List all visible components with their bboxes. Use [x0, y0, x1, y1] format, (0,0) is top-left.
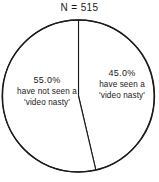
- slice-label-have-not-seen: 55.0% have not seen a 'video nasty': [5, 75, 89, 108]
- slice-percent-have-not-seen: 55.0%: [5, 75, 89, 85]
- slice-label-have-seen: 45.0% have seen a 'video nasty': [88, 68, 156, 101]
- slice-percent-have-seen: 45.0%: [88, 68, 156, 78]
- slice-text-line2-have-seen: 'video nasty': [88, 91, 156, 101]
- slice-text-line1-have-seen: have seen a: [88, 80, 156, 90]
- pie-chart-figure: N = 515 55.0% have not seen a 'video nas…: [0, 0, 159, 182]
- slice-text-line1-have-not-seen: have not seen a: [5, 87, 89, 97]
- slice-text-line2-have-not-seen: 'video nasty': [5, 98, 89, 108]
